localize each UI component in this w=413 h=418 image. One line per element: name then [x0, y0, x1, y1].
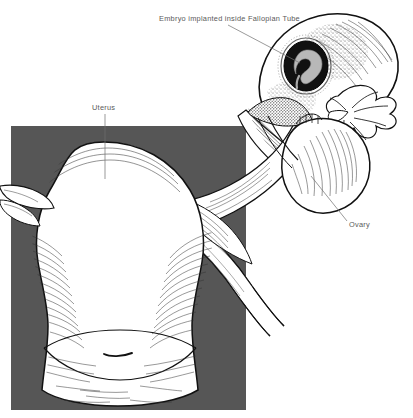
- ectopic-pregnancy-illustration: Embryo implanted inside Fallopian Tube U…: [0, 0, 413, 418]
- illustration-canvas: Embryo implanted inside Fallopian Tube U…: [0, 0, 413, 418]
- label-uterus: Uterus: [92, 103, 115, 112]
- label-embryo: Embryo implanted inside Fallopian Tube: [159, 14, 300, 23]
- label-ovary: Ovary: [349, 220, 370, 229]
